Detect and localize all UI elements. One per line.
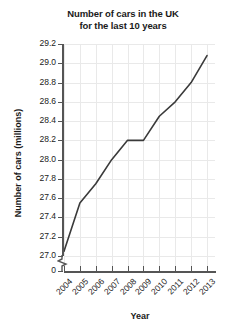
y-tick-mark [58,83,63,84]
y-tick-label: 27.6 [22,193,56,202]
x-tick-mark [175,266,176,272]
y-tick-label: 29.0 [22,58,56,67]
y-tick-mark [58,140,63,141]
y-tick-label: 28.6 [22,97,56,106]
y-tick-mark [58,198,63,199]
chart-container: Number of cars in the UK for the last 10… [0,0,246,328]
y-tick-label: 28.0 [22,155,56,164]
x-tick-mark [191,266,192,272]
data-series-line [64,44,215,272]
x-tick-mark [112,266,113,272]
y-tick-label: 0 [22,266,56,275]
y-tick-label: 27.4 [22,212,56,221]
y-tick-label: 29.2 [22,39,56,48]
y-axis [62,44,64,256]
axis-break-icon [57,255,69,271]
y-tick-mark [58,179,63,180]
plot-area [64,44,215,272]
x-tick-mark [207,266,208,272]
y-tick-label: 27.0 [22,251,56,260]
x-tick-mark [80,266,81,272]
x-tick-mark [128,266,129,272]
y-tick-mark [58,121,63,122]
x-tick-mark [159,266,160,272]
y-tick-mark [58,63,63,64]
y-tick-mark [58,44,63,45]
y-tick-mark [58,237,63,238]
x-tick-mark [143,266,144,272]
y-tick-mark [58,271,63,272]
y-tick-label: 28.4 [22,116,56,125]
y-tick-label: 27.8 [22,174,56,183]
chart-title-line-1: Number of cars in the UK [0,8,246,20]
y-tick-mark [58,102,63,103]
y-tick-label: 27.2 [22,232,56,241]
y-tick-mark [58,217,63,218]
y-tick-label: 28.2 [22,135,56,144]
y-tick-mark [58,160,63,161]
chart-title-line-2: for the last 10 years [0,20,246,32]
x-tick-mark [96,266,97,272]
x-axis [64,271,216,273]
chart-title: Number of cars in the UK for the last 10… [0,8,246,32]
y-tick-label: 28.8 [22,78,56,87]
